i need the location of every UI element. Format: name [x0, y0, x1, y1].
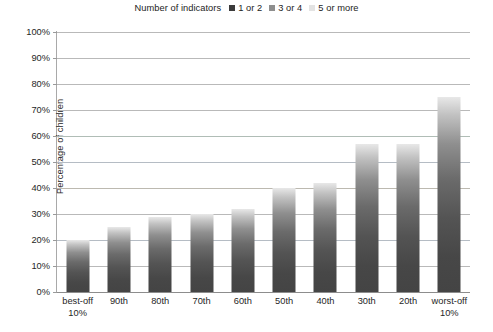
legend-title: Number of indicators: [134, 3, 221, 13]
x-axis-tick-label: 50th: [264, 296, 305, 308]
x-axis-labels: best-off10%90th80th70th60th50th40th30th2…: [57, 296, 470, 330]
x-axis-tick-label-line2: 10%: [429, 308, 470, 320]
x-axis-tick-label: 20th: [387, 296, 428, 308]
legend-item-3-or-4: 3 or 4: [269, 3, 302, 13]
y-axis-tick-label: 100%: [26, 27, 50, 37]
bar-slot: [387, 32, 428, 292]
x-axis-line: [56, 292, 470, 293]
bar: [66, 240, 89, 292]
bar: [314, 183, 337, 292]
x-axis-tick-label-line1: 90th: [110, 296, 128, 306]
bar: [397, 144, 420, 292]
x-axis-tick-label-line1: best-off: [62, 296, 93, 306]
x-axis-tick-label-line1: 30th: [358, 296, 376, 306]
x-axis-tick-label-line1: 60th: [234, 296, 252, 306]
legend-item-label: 1 or 2: [238, 3, 262, 13]
plot-area: Percentage of children 0%10%20%30%40%50%…: [57, 32, 470, 292]
legend-item-1-or-2: 1 or 2: [229, 3, 262, 13]
x-axis-tick-label-line1: 20th: [399, 296, 417, 306]
x-axis-tick-label: best-off10%: [57, 296, 98, 319]
bar: [355, 144, 378, 292]
x-axis-tick-label-line1: 50th: [275, 296, 293, 306]
x-axis-tick-label: 90th: [98, 296, 139, 308]
bars-layer: [57, 32, 470, 292]
legend-item-label: 3 or 4: [278, 3, 302, 13]
bar: [231, 209, 254, 292]
bar-slot: [140, 32, 181, 292]
bar: [273, 188, 296, 292]
x-axis-tick-label-line1: 70th: [192, 296, 210, 306]
y-axis-tick-mark: [53, 292, 57, 293]
bar-slot: [346, 32, 387, 292]
x-axis-tick-label: 30th: [346, 296, 387, 308]
bar-chart: Number of indicators 1 or 2 3 or 4 5 or …: [0, 0, 493, 332]
legend-swatch-icon: [229, 5, 235, 11]
y-axis-tick-label: 70%: [31, 105, 50, 115]
bar-slot: [57, 32, 98, 292]
bar-slot: [98, 32, 139, 292]
legend-swatch-icon: [309, 5, 315, 11]
legend-item-5-or-more: 5 or more: [309, 3, 358, 13]
bar: [107, 227, 130, 292]
bar: [190, 214, 213, 292]
x-axis-tick-label-line1: worst-off: [432, 296, 467, 306]
x-axis-tick-label-line2: 10%: [57, 308, 98, 320]
x-axis-tick-label-line1: 40th: [316, 296, 334, 306]
y-axis-tick-label: 50%: [31, 157, 50, 167]
x-axis-tick-label: worst-off10%: [429, 296, 470, 319]
bar: [438, 97, 461, 292]
y-axis-tick-label: 0%: [37, 287, 50, 297]
x-axis-tick-label: 40th: [305, 296, 346, 308]
legend-swatch-icon: [269, 5, 275, 11]
chart-legend: Number of indicators 1 or 2 3 or 4 5 or …: [0, 3, 493, 13]
x-axis-tick-label: 60th: [222, 296, 263, 308]
legend-item-label: 5 or more: [318, 3, 358, 13]
bar-slot: [264, 32, 305, 292]
bar-slot: [222, 32, 263, 292]
y-axis-tick-label: 20%: [31, 235, 50, 245]
y-axis-tick-label: 30%: [31, 209, 50, 219]
x-axis-tick-label: 70th: [181, 296, 222, 308]
y-axis-tick-label: 80%: [31, 79, 50, 89]
bar-slot: [181, 32, 222, 292]
x-axis-tick-label: 80th: [140, 296, 181, 308]
x-axis-tick-label-line1: 80th: [151, 296, 169, 306]
y-axis-tick-label: 40%: [31, 183, 50, 193]
y-axis-tick-label: 10%: [31, 261, 50, 271]
bar-slot: [429, 32, 470, 292]
y-axis-tick-label: 90%: [31, 53, 50, 63]
bar: [149, 217, 172, 292]
bar-slot: [305, 32, 346, 292]
y-axis-tick-label: 60%: [31, 131, 50, 141]
